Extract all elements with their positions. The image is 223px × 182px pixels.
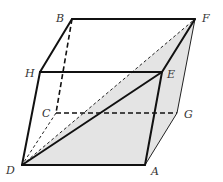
- vertex-label-d: D: [5, 164, 15, 177]
- vertex-label-h: H: [24, 67, 35, 80]
- vertex-label-c: C: [42, 107, 51, 120]
- vertex-label-g: G: [184, 108, 193, 121]
- vertex-label-f: F: [201, 12, 210, 25]
- vertex-label-e: E: [166, 68, 175, 81]
- vertex-label-a: A: [150, 165, 159, 178]
- vertex-label-b: B: [55, 12, 64, 25]
- parallelepiped-diagram: ABCDEFGH: [0, 0, 223, 182]
